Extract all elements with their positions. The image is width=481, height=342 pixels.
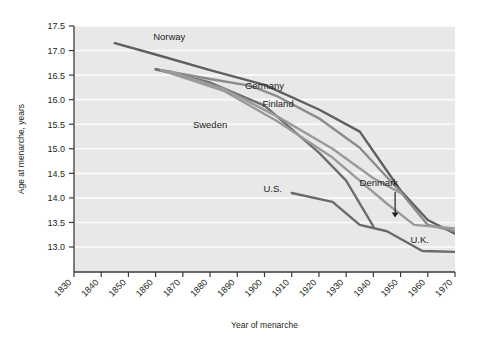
y-tick-label: 17.0 bbox=[47, 46, 65, 56]
series-label-finland: Finland bbox=[263, 98, 294, 109]
y-tick-label: 15.0 bbox=[47, 144, 65, 154]
series-label-norway: Norway bbox=[153, 31, 185, 42]
series-label-germany: Germany bbox=[245, 80, 284, 91]
x-tick-label: 1920 bbox=[297, 277, 318, 298]
y-axis-title: Age at menarche, years bbox=[16, 104, 26, 194]
x-tick-label: 1890 bbox=[215, 277, 236, 298]
x-tick-label: 1830 bbox=[52, 277, 73, 298]
x-tick-label: 1880 bbox=[188, 277, 209, 298]
menarche-age-line-chart: 13.013.514.014.515.015.516.016.517.017.5… bbox=[0, 0, 481, 342]
y-tick-label: 14.0 bbox=[47, 193, 65, 203]
series-label-uk: U.K. bbox=[410, 234, 428, 245]
x-tick-label: 1900 bbox=[243, 277, 264, 298]
x-axis-title: Year of menarche bbox=[231, 320, 298, 330]
x-tick-label: 1870 bbox=[161, 277, 182, 298]
x-tick-label: 1840 bbox=[79, 277, 100, 298]
series-label-sweden: Sweden bbox=[193, 119, 227, 130]
x-tick-label: 1910 bbox=[270, 277, 291, 298]
series-label-us: U.S. bbox=[263, 183, 281, 194]
y-tick-label: 16.5 bbox=[47, 71, 65, 81]
series-label-denmark: Denmark bbox=[360, 177, 399, 188]
y-tick-label: 14.5 bbox=[47, 169, 65, 179]
y-tick-label: 17.5 bbox=[47, 21, 65, 31]
chart-container: 13.013.514.014.515.015.516.016.517.017.5… bbox=[0, 0, 481, 342]
x-tick-label: 1970 bbox=[433, 277, 454, 298]
x-tick-label: 1850 bbox=[107, 277, 128, 298]
y-tick-label: 16.0 bbox=[47, 95, 65, 105]
y-tick-label: 15.5 bbox=[47, 120, 65, 130]
x-tick-label: 1860 bbox=[134, 277, 155, 298]
x-tick-label: 1930 bbox=[324, 277, 345, 298]
x-tick-label: 1940 bbox=[352, 277, 373, 298]
y-tick-label: 13.0 bbox=[47, 242, 65, 252]
x-tick-label: 1950 bbox=[379, 277, 400, 298]
y-tick-label: 13.5 bbox=[47, 218, 65, 228]
x-tick-label: 1960 bbox=[406, 277, 427, 298]
